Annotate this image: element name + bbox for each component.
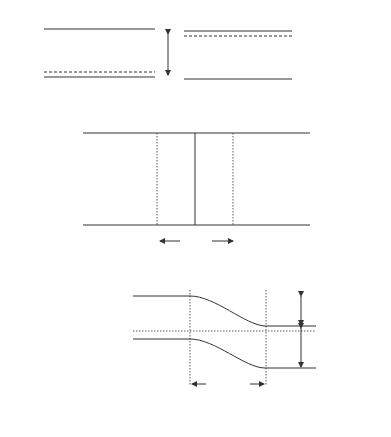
panel-b: [83, 133, 310, 241]
panel-a: [0, 0, 292, 79]
panel-c: [0, 0, 316, 385]
pn-junction-diagram: [0, 0, 391, 437]
conduction-band-curve: [133, 296, 316, 326]
valence-band-curve: [133, 339, 316, 368]
